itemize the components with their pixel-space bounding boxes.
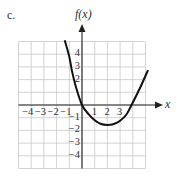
- x-tick-label: 3: [117, 107, 122, 118]
- x-axis-arrow-icon: [155, 102, 163, 109]
- y-axis-label: f(x): [75, 8, 92, 20]
- y-tick-label: −4: [69, 150, 80, 161]
- part-label: c.: [7, 9, 15, 21]
- x-tick-label: 1: [92, 107, 97, 118]
- y-tick-label: −2: [69, 124, 80, 135]
- x-tick-label: 2: [104, 107, 109, 118]
- x-tick-label: −2: [48, 107, 59, 118]
- function-graph: [0, 0, 177, 177]
- y-tick-label: 3: [75, 61, 80, 72]
- y-tick-label: −3: [69, 137, 80, 148]
- y-axis-arrow-icon: [79, 24, 86, 32]
- y-tick-label: 2: [75, 74, 80, 85]
- y-tick-label: −1: [69, 112, 80, 123]
- x-tick-label: −3: [35, 107, 46, 118]
- x-tick-label: −4: [22, 107, 33, 118]
- x-axis-label: x: [165, 98, 170, 110]
- y-tick-label: 4: [75, 48, 80, 59]
- axes: [19, 24, 164, 169]
